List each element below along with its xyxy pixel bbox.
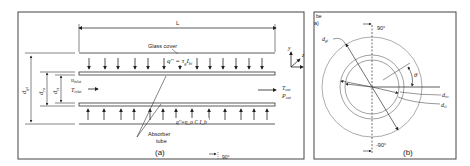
heat-flux-bottom-label: q''=η_o C I_b bbox=[175, 118, 209, 126]
inlet-velocity-label: uinlet bbox=[71, 77, 82, 84]
absorber-top-wall bbox=[79, 72, 275, 75]
theta-label: θ bbox=[414, 71, 418, 79]
d-ri-label: dri bbox=[441, 102, 447, 109]
dim-d-ri-label: dri bbox=[51, 87, 60, 94]
absorber-label-1: Absorber bbox=[148, 131, 170, 137]
dim-d-gi-label: dgi bbox=[20, 87, 29, 95]
top-angle-label: 90° bbox=[377, 25, 385, 31]
axis-y-label: y bbox=[287, 45, 291, 51]
outlet-temperature-label: Tout bbox=[282, 85, 291, 92]
heat-flux-top-label: q'' = τgIbi bbox=[166, 56, 196, 66]
panel-b-corner-1: be bbox=[316, 13, 322, 19]
angle-90-label: 90° bbox=[222, 154, 230, 160]
panel-a: L Glass cover q'' = τgIbi bbox=[18, 12, 305, 160]
d-gi-label: dgi bbox=[322, 36, 328, 43]
absorber-bottom-wall bbox=[79, 103, 275, 106]
panel-b: be a) 90° -90° θ dgi dro dri (b) bbox=[314, 12, 456, 159]
panel-b-frame bbox=[314, 12, 456, 159]
dim-d-ro-label: dro bbox=[37, 87, 46, 95]
absorber-leader-1 bbox=[137, 76, 166, 137]
bottom-angle-label: -90° bbox=[376, 142, 386, 148]
absorber-label-2: tube bbox=[156, 138, 167, 144]
dimension-lines bbox=[25, 53, 75, 124]
outlet-pressure-label: Pout bbox=[281, 93, 292, 100]
panel-b-caption: (b) bbox=[403, 148, 413, 157]
length-label: L bbox=[176, 20, 180, 26]
panel-b-corner-2: a) bbox=[314, 20, 319, 26]
glass-cover-label: Glass cover bbox=[148, 43, 177, 49]
diagram-canvas: L Glass cover q'' = τgIbi bbox=[0, 0, 470, 166]
inlet-temperature-label: Tinlet bbox=[71, 87, 82, 94]
d-ro-label: dro bbox=[442, 92, 448, 99]
panel-a-caption: (a) bbox=[155, 148, 165, 157]
